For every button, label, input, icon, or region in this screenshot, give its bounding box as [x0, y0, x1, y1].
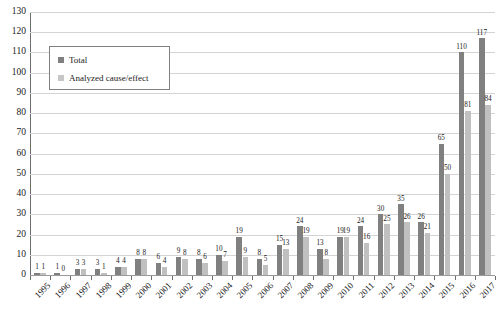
bar-group-2004: 107	[212, 12, 232, 275]
bar-value-total-2009: 13	[313, 240, 327, 247]
bar-analyzed-2002	[182, 259, 188, 275]
x-axis-label-2008: 2008	[296, 281, 315, 300]
legend-item-analyzed: Analyzed cause/effect	[58, 72, 149, 84]
bar-value-total-2014: 26	[414, 214, 428, 221]
bar-analyzed-2015	[445, 174, 451, 275]
bar-total-2017	[479, 38, 485, 275]
x-tick-1995	[30, 276, 31, 280]
bar-value-analyzed-2008: 19	[299, 228, 313, 235]
bar-value-analyzed-2014: 21	[420, 224, 434, 231]
bar-analyzed-2014	[425, 233, 431, 275]
bar-analyzed-2011	[364, 243, 370, 275]
x-axis-label-1998: 1998	[94, 281, 113, 300]
y-tick-label-40: 40	[0, 189, 26, 199]
bar-analyzed-2006	[263, 265, 269, 275]
bar-analyzed-2007	[283, 249, 289, 275]
bar-value-total-2013: 35	[394, 196, 408, 203]
bar-value-total-2017: 117	[475, 30, 489, 37]
bar-analyzed-1998	[101, 273, 107, 275]
bar-group-2014: 2621	[414, 12, 434, 275]
bar-group-2011: 2416	[353, 12, 373, 275]
total-swatch-icon	[58, 57, 64, 63]
bar-value-total-2005: 19	[232, 228, 246, 235]
x-axis-label-1996: 1996	[54, 281, 73, 300]
bar-group-2009: 138	[313, 12, 333, 275]
bar-value-analyzed-1995: 1	[36, 264, 50, 271]
bar-total-2000	[135, 259, 141, 275]
x-axis-label-1999: 1999	[114, 281, 133, 300]
bar-analyzed-2000	[141, 259, 147, 275]
bar-value-analyzed-2002: 8	[178, 250, 192, 257]
x-axis-label-2010: 2010	[337, 281, 356, 300]
y-tick-label-30: 30	[0, 209, 26, 219]
bar-group-1995: 11	[30, 12, 50, 275]
x-tick-2008	[293, 276, 294, 280]
x-axis-label-2001: 2001	[155, 281, 174, 300]
y-tick-label-70: 70	[0, 128, 26, 138]
bar-analyzed-1995	[40, 273, 46, 275]
legend-label-analyzed: Analyzed cause/effect	[69, 74, 149, 83]
x-tick-2015	[434, 276, 435, 280]
bar-total-2007	[277, 245, 283, 275]
x-tick-2007	[273, 276, 274, 280]
x-tick-2006	[252, 276, 253, 280]
bar-analyzed-2001	[162, 267, 168, 275]
bar-group-2017: 11784	[475, 12, 495, 275]
bar-group-2005: 199	[232, 12, 252, 275]
bar-value-analyzed-2013: 26	[400, 214, 414, 221]
bar-group-2015: 6550	[434, 12, 454, 275]
bar-chart: 0102030405060708090100110120130 11103331…	[0, 0, 504, 322]
x-tick-2014	[414, 276, 415, 280]
bar-value-total-2008: 24	[293, 218, 307, 225]
bar-group-2002: 98	[172, 12, 192, 275]
bar-value-analyzed-2012: 25	[380, 216, 394, 223]
y-tick-label-90: 90	[0, 88, 26, 98]
bar-value-total-2016: 110	[455, 44, 469, 51]
x-axis-label-2013: 2013	[397, 281, 416, 300]
bar-total-1995	[34, 273, 40, 275]
x-axis-label-2007: 2007	[276, 281, 295, 300]
x-axis-label-2002: 2002	[175, 281, 194, 300]
x-axis-label-2006: 2006	[256, 281, 275, 300]
bar-value-analyzed-2000: 8	[137, 250, 151, 257]
bar-total-2012	[378, 214, 384, 275]
bar-value-analyzed-2015: 50	[441, 165, 455, 172]
x-tick-2017	[475, 276, 476, 280]
bar-analyzed-1997	[81, 269, 87, 275]
bar-value-analyzed-2006: 5	[259, 256, 273, 263]
bar-analyzed-2009	[323, 259, 329, 275]
x-tick-2009	[313, 276, 314, 280]
bar-group-2010: 1919	[333, 12, 353, 275]
bar-total-2010	[337, 237, 343, 275]
y-tick-label-80: 80	[0, 108, 26, 118]
bar-value-total-2011: 24	[353, 218, 367, 225]
x-axis-label-2005: 2005	[236, 281, 255, 300]
x-tick-1996	[50, 276, 51, 280]
x-tick-2005	[232, 276, 233, 280]
bar-total-2016	[459, 52, 465, 275]
y-tick-label-100: 100	[0, 68, 26, 78]
bar-group-2003: 86	[192, 12, 212, 275]
x-tick-2000	[131, 276, 132, 280]
x-tick-end	[495, 276, 496, 280]
bar-value-total-2012: 30	[374, 206, 388, 213]
x-axis-label-2017: 2017	[478, 281, 497, 300]
x-tick-2003	[192, 276, 193, 280]
bar-value-analyzed-2005: 9	[238, 248, 252, 255]
x-axis-label-2014: 2014	[418, 281, 437, 300]
bar-value-analyzed-2016: 81	[461, 102, 475, 109]
x-tick-2016	[455, 276, 456, 280]
bar-analyzed-2003	[202, 263, 208, 275]
x-axis-label-1995: 1995	[33, 281, 52, 300]
bar-value-analyzed-1997: 3	[77, 260, 91, 267]
x-tick-2013	[394, 276, 395, 280]
bar-analyzed-2004	[222, 261, 228, 275]
bar-value-total-2015: 65	[434, 135, 448, 142]
bar-analyzed-1999	[121, 267, 127, 275]
bar-analyzed-2008	[303, 237, 309, 275]
x-tick-2011	[353, 276, 354, 280]
y-tick-label-130: 130	[0, 7, 26, 17]
bar-analyzed-2017	[485, 105, 491, 275]
x-tick-1999	[111, 276, 112, 280]
bar-group-2007: 1513	[273, 12, 293, 275]
